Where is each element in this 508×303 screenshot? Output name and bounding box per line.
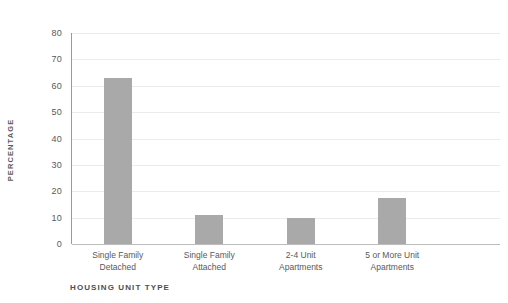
bar [378,198,406,244]
x-category-label-line: 2-4 Unit [255,250,347,262]
bar-slot [347,33,439,244]
y-axis-tick-labels: 80 70 60 50 40 30 20 10 0 [22,33,62,244]
bar [287,218,315,244]
x-category-label-line: Apartments [347,262,439,274]
x-category-label: 2-4 Unit Apartments [255,250,347,273]
bar-slot [164,33,256,244]
x-category-label: Single Family Attached [164,250,256,273]
x-category-label-line: Detached [72,262,164,274]
x-axis-title: HOUSING UNIT TYPE [70,283,170,292]
bar-slot [72,33,164,244]
x-category-label-line: Apartments [255,262,347,274]
bar [195,215,223,244]
y-tick-label: 30 [22,160,62,170]
y-tick-label: 60 [22,81,62,91]
x-category-label: Single Family Detached [72,250,164,273]
y-tick-label: 20 [22,186,62,196]
x-category-label-line: Attached [164,262,256,274]
x-axis-baseline [72,244,500,245]
x-category-label-line: 5 or More Unit [347,250,439,262]
x-axis-category-labels: Single Family Detached Single Family Att… [72,250,438,273]
y-tick-label: 0 [22,239,62,249]
y-tick-label: 40 [22,134,62,144]
bar [104,78,132,244]
bar-series [72,33,438,244]
x-category-label-line: Single Family [164,250,256,262]
y-axis-title: PERCENTAGE [6,119,15,182]
y-tick-label: 10 [22,213,62,223]
y-tick-label: 70 [22,54,62,64]
x-category-label-line: Single Family [72,250,164,262]
bar-slot [255,33,347,244]
y-tick-label: 80 [22,28,62,38]
x-category-label: 5 or More Unit Apartments [347,250,439,273]
bar-chart: PERCENTAGE 80 70 60 50 40 30 20 10 0 [0,0,508,303]
y-tick-label: 50 [22,107,62,117]
